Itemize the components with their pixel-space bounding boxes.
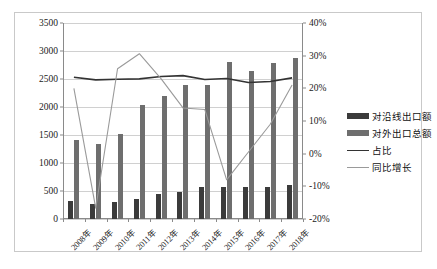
left-axis-tick-label: 1500: [39, 130, 58, 140]
x-axis-label: 2016年: [242, 226, 268, 252]
legend-item-label: 对沿线出口额: [372, 109, 432, 123]
right-axis-tick-label: 0%: [309, 149, 322, 159]
x-axis-label: 2015年: [220, 226, 246, 252]
left-axis-tick-label: 0: [53, 214, 58, 224]
right-axis-tick-mark: [303, 88, 306, 89]
left-axis-tick-label: 3000: [39, 46, 58, 56]
x-axis-label: 2018年: [285, 226, 311, 252]
right-axis-tick-label: -20%: [309, 214, 330, 224]
legend-item-label: 占比: [372, 143, 392, 157]
left-axis-tick-label: 1000: [39, 158, 58, 168]
legend-item-label: 对外出口总额: [372, 126, 432, 140]
legend-swatch-icon: [347, 150, 369, 151]
line-yoy-growth: [74, 54, 292, 209]
x-axis-tick-mark: [259, 219, 260, 222]
right-axis-tick-label: 10%: [309, 116, 326, 126]
legend-item[interactable]: 占比: [347, 143, 432, 157]
x-axis-label: 2013年: [176, 226, 202, 252]
left-axis-tick-label: 2500: [39, 74, 58, 84]
left-axis-tick-label: 3500: [39, 18, 58, 28]
chart-container: 0500100015002000250030003500 -20%-10%0%1…: [14, 12, 422, 252]
x-axis-label: 2017年: [264, 226, 290, 252]
x-axis-tick-mark: [150, 219, 151, 222]
right-axis-tick-mark: [303, 23, 306, 24]
x-axis-tick-mark: [63, 219, 64, 222]
gridline: [63, 219, 303, 220]
plot-area: 0500100015002000250030003500 -20%-10%0%1…: [63, 23, 303, 219]
right-axis-tick-mark: [303, 55, 306, 56]
x-axis-tick-mark: [238, 219, 239, 222]
legend-swatch-icon: [347, 167, 369, 168]
x-axis-label: 2008年: [67, 226, 93, 252]
x-axis-tick-mark: [216, 219, 217, 222]
x-axis-label: 2010年: [111, 226, 137, 252]
right-axis-tick-label: 20%: [309, 83, 326, 93]
x-axis-tick-mark: [107, 219, 108, 222]
x-axis-tick-mark: [303, 219, 304, 222]
x-axis-label: 2009年: [89, 226, 115, 252]
right-axis-tick-mark: [303, 186, 306, 187]
legend-swatch-icon: [347, 113, 369, 119]
left-axis-tick-label: 500: [44, 186, 58, 196]
legend-item[interactable]: 对外出口总额: [347, 126, 432, 140]
line-series-layer: [63, 23, 303, 219]
x-axis-tick-mark: [281, 219, 282, 222]
right-axis-tick-mark: [303, 121, 306, 122]
legend-swatch-icon: [347, 130, 369, 136]
chart-legend: 对沿线出口额对外出口总额占比同比增长: [347, 109, 432, 174]
x-axis-label: 2014年: [198, 226, 224, 252]
x-axis-label: 2011年: [133, 226, 159, 252]
x-axis-label: 2012年: [154, 226, 180, 252]
left-axis-tick-label: 2000: [39, 102, 58, 112]
right-axis-tick-mark: [303, 153, 306, 154]
line-share: [74, 76, 292, 83]
x-axis-tick-mark: [194, 219, 195, 222]
legend-item[interactable]: 同比增长: [347, 160, 432, 174]
x-axis-tick-mark: [128, 219, 129, 222]
x-axis-tick-mark: [172, 219, 173, 222]
legend-item-label: 同比增长: [372, 160, 412, 174]
right-axis-tick-label: 30%: [309, 51, 326, 61]
right-axis-tick-label: 40%: [309, 18, 326, 28]
x-axis-tick-mark: [85, 219, 86, 222]
right-axis-tick-label: -10%: [309, 181, 330, 191]
legend-item[interactable]: 对沿线出口额: [347, 109, 432, 123]
